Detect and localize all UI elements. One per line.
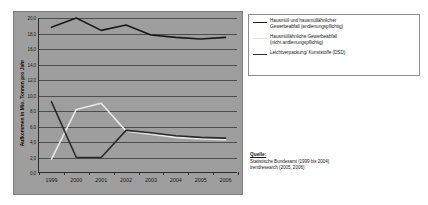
y-axis-label: Aufkommen in Mio. Tonnen pro Jahr [19,28,25,178]
legend-label-line-2: Gewerbeabfall (andienungspflichtig) [270,24,343,29]
y-tick-label: 6,0 [30,124,36,129]
legend-line-swatch-icon [253,36,267,41]
y-tick-label: 10,0 [27,93,36,98]
legend-label-line-1: Hausmüllähnliche Gewerbeabfall [270,34,337,39]
source-note: Quelle: Statistische Bundesamt (1999 bis… [250,152,424,171]
y-tick-label: 20,0 [27,16,36,21]
legend-item-label: Leichtverpackung/ Kunststoffe (DSD) [270,50,345,56]
series-line [51,102,225,158]
series-lines [39,18,238,173]
x-tick-label: 2000 [70,177,82,183]
plot-area: 20,018,016,014,012,010,08,06,04,02,00,0 … [38,18,237,173]
legend-label-line-1: Hausmüll und hausmüllähnlicher [270,18,336,23]
y-tick-label: 2,0 [30,155,36,160]
legend-item-leichtverpackung-dsd: Leichtverpackung/ Kunststoffe (DSD) [253,50,416,57]
legend-label-line-1: Leichtverpackung/ Kunststoffe (DSD) [270,50,345,55]
source-line-2: trendresearch (2005, 2006) [250,165,424,171]
legend-item-label: Hausmüllähnliche Gewerbeabfall (nicht an… [270,34,337,46]
y-tick-label: 18,0 [27,31,36,36]
series-line [51,18,225,39]
source-title: Quelle: [250,152,424,157]
legend-label-line-2: (nicht andienungspflichtig) [270,40,323,45]
y-tick-label: 4,0 [30,140,36,145]
legend-item-hausmuell-andienungspflichtig: Hausmüll und hausmüllähnlicher Gewerbeab… [253,18,416,30]
x-tick-label: 2004 [170,177,182,183]
y-tick-label: 16,0 [27,47,36,52]
x-tick-label: 1999 [45,177,57,183]
y-tick-label: 0,0 [30,171,36,176]
x-tick-label: 2002 [120,177,132,183]
legend-line-swatch-icon [253,20,267,25]
chart-panel: Aufkommen in Mio. Tonnen pro Jahr 20,018… [13,11,243,195]
x-tick-label: 2001 [95,177,107,183]
chart-screenshot: Aufkommen in Mio. Tonnen pro Jahr 20,018… [0,0,428,205]
chart-legend: Hausmüll und hausmüllähnlicher Gewerbeab… [248,14,420,76]
legend-line-swatch-icon [253,52,267,57]
x-tick-mark [238,172,239,175]
y-tick-label: 14,0 [27,62,36,67]
x-tick-label: 2005 [195,177,207,183]
x-tick-label: 2003 [145,177,157,183]
y-tick-label: 8,0 [30,109,36,114]
x-tick-label: 2006 [220,177,232,183]
legend-item-hausmuellaehnlich-nicht-andienungspflichtig: Hausmüllähnliche Gewerbeabfall (nicht an… [253,34,416,46]
y-tick-label: 12,0 [27,78,36,83]
legend-item-label: Hausmüll und hausmüllähnlicher Gewerbeab… [270,18,343,30]
